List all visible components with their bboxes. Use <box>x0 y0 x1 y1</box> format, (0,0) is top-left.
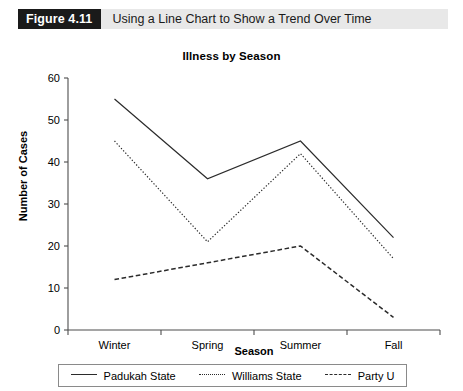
legend-entry: Party U <box>325 370 395 382</box>
series-lines <box>115 99 394 317</box>
y-tick-label: 10 <box>48 282 60 294</box>
plot-svg: 0102030405060 WinterSpringSummerFall <box>0 32 463 362</box>
legend-label: Padukah State <box>104 370 176 382</box>
y-tick-label: 60 <box>48 72 60 84</box>
y-tick-label: 50 <box>48 114 60 126</box>
series-line <box>115 99 394 238</box>
y-tick-label: 0 <box>54 324 60 336</box>
legend-label: Party U <box>358 370 395 382</box>
legend-entry: Padukah State <box>71 370 176 382</box>
series-line <box>115 246 394 317</box>
legend-line-icon <box>325 374 351 377</box>
legend-line-icon <box>71 374 97 377</box>
x-tick-label: Winter <box>99 339 131 351</box>
legend-entry: Williams State <box>199 370 302 382</box>
figure-number-badge: Figure 4.11 <box>18 9 101 29</box>
legend-label: Williams State <box>232 370 302 382</box>
figure-header: Figure 4.11 Using a Line Chart to Show a… <box>18 9 448 29</box>
line-chart: Illness by Season Number of Cases Season… <box>0 32 463 362</box>
y-tick-label: 20 <box>48 240 60 252</box>
y-axis-ticks: 0102030405060 <box>48 72 68 336</box>
x-tick-label: Fall <box>385 339 403 351</box>
x-tick-label: Summer <box>280 339 322 351</box>
legend-line-icon <box>199 374 225 377</box>
figure-caption: Using a Line Chart to Show a Trend Over … <box>101 9 371 29</box>
chart-legend: Padukah StateWilliams StateParty U <box>58 364 407 387</box>
series-line <box>115 141 394 259</box>
x-tick-label: Spring <box>192 339 224 351</box>
x-axis-labels: WinterSpringSummerFall <box>99 339 403 351</box>
x-axis-ticks <box>68 330 440 335</box>
y-tick-label: 40 <box>48 156 60 168</box>
y-tick-label: 30 <box>48 198 60 210</box>
